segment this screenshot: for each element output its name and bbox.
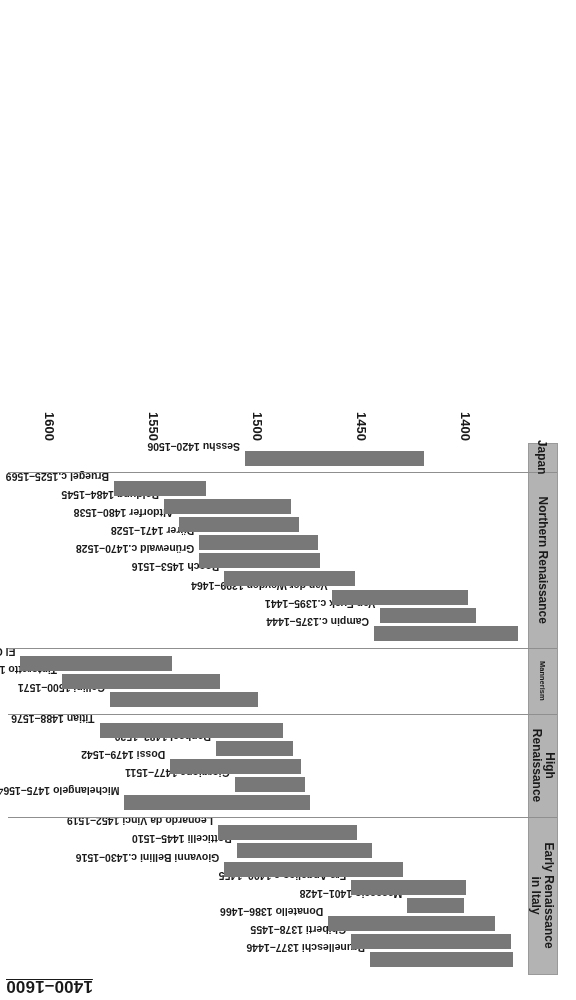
- bar-label: Altdorfer 1480–1538: [74, 507, 174, 519]
- axis-tick-1500: 1500: [250, 409, 265, 445]
- category-text: Japan: [535, 440, 548, 475]
- timeline-bar: [179, 517, 300, 532]
- axis-tick-1550: 1550: [146, 409, 161, 445]
- category-label-early-renaissance-in-italy: Early Renaissancein Italy: [527, 817, 557, 974]
- timeline-bar: [351, 934, 511, 949]
- category-label-northern-renaissance: Northern Renaissance: [527, 472, 557, 647]
- timeline-bar: [237, 844, 372, 859]
- timeline-bar: [235, 777, 306, 792]
- plot-area: Brunelleschi 1377–1446Ghiberti 1378–1455…: [8, 443, 528, 975]
- category-text: Mannerism: [538, 661, 546, 701]
- timeline-bar: [380, 608, 476, 623]
- bar-label: Brunelleschi 1377–1446: [246, 942, 365, 954]
- timeline-bar: [218, 825, 357, 840]
- group-separator: [8, 714, 528, 715]
- timeline-bar: [125, 795, 310, 810]
- timeline-bar: [224, 862, 403, 877]
- x-axis: 14001450150015501600: [8, 380, 528, 440]
- timeline-bar: [370, 952, 514, 967]
- timeline-bar: [224, 572, 355, 587]
- timeline-bar: [328, 916, 494, 931]
- axis-tick-1450: 1450: [354, 409, 369, 445]
- category-label-japan: Japan: [527, 442, 557, 472]
- bar-label: Campin c.1375–1444: [266, 616, 369, 628]
- timeline-bar: [21, 656, 173, 671]
- category-text: Northern Renaissance: [535, 497, 548, 624]
- category-label-mannerism: Mannerism: [527, 648, 557, 714]
- bar-label: Michelangelo 1475–1564: [0, 785, 119, 797]
- bar-label: Donatello 1386–1466: [220, 906, 323, 918]
- timeline-bar: [333, 590, 468, 605]
- bar-label: Dossi 1479–1542: [81, 749, 165, 761]
- axis-tick-1600: 1600: [42, 409, 57, 445]
- bar-label: Grünewald c.1470–1528: [76, 543, 195, 555]
- timeline-bar: [62, 674, 220, 689]
- bar-label: Botticelli 1445–1510: [132, 834, 232, 846]
- timeline-bar: [199, 553, 320, 568]
- timeline-bar: [245, 451, 424, 466]
- timeline-figure: 1400–1600 Early Renaissancein ItalyHighR…: [0, 0, 576, 1000]
- group-separator: [8, 472, 528, 473]
- timeline-bar: [374, 626, 518, 641]
- group-separator: [8, 817, 528, 818]
- timeline-bar: [100, 723, 283, 738]
- chart-title: 1400–1600: [6, 976, 93, 996]
- timeline-bar: [164, 499, 291, 514]
- timeline-bar: [114, 481, 206, 496]
- timeline-bar: [110, 692, 258, 707]
- timeline-bar: [351, 880, 465, 895]
- timeline-bar: [170, 759, 301, 774]
- category-label-high-renaissance: HighRenaissance: [527, 714, 557, 817]
- axis-tick-1400: 1400: [458, 409, 473, 445]
- category-text: Early Renaissancein Italy: [529, 843, 556, 949]
- timeline-bar: [407, 898, 463, 913]
- timeline-bar: [216, 741, 293, 756]
- category-text: HighRenaissance: [529, 729, 556, 802]
- category-band: Early Renaissancein ItalyHighRenaissance…: [528, 443, 558, 975]
- bar-label: Giovanni Bellini c.1430–1516: [76, 852, 220, 864]
- timeline-bar: [199, 535, 318, 550]
- group-separator: [8, 648, 528, 649]
